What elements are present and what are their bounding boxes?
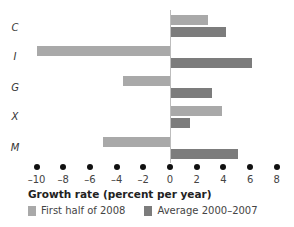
bar-m-average-2000-2007 [171,149,238,159]
legend-item-first-half-2008: First half of 2008 [28,205,125,216]
tick-label: –4 [104,174,130,186]
tick-label: 2 [184,174,210,186]
bar-x-average-2000-2007 [171,118,190,128]
tick-dot [194,164,200,170]
legend-item-average-2000-2007: Average 2000–2007 [144,205,257,216]
bar-m-first-half-2008 [103,137,170,147]
tick-label: –8 [50,174,76,186]
bar-i-first-half-2008 [37,46,171,56]
growth-rate-bar-chart: C I G X M –10–8–6–4–202468 Growth rate (… [0,0,294,227]
tick-label: –6 [77,174,103,186]
tick-label: 6 [237,174,263,186]
tick-dot [167,164,173,170]
tick-label: 8 [264,174,290,186]
legend-label-average-2000-2007: Average 2000–2007 [157,205,257,216]
tick-dot [220,164,226,170]
tick-dot [274,164,280,170]
tick-dot [34,164,40,170]
x-axis-title: Growth rate (percent per year) [28,188,212,200]
category-label-c: C [9,22,21,34]
category-label-x: X [9,111,21,123]
bar-i-average-2000-2007 [171,58,252,68]
tick-dot [114,164,120,170]
legend: First half of 2008 Average 2000–2007 [28,205,277,216]
legend-label-first-half-2008: First half of 2008 [41,205,125,216]
category-label-i: I [9,51,21,63]
tick-label: 0 [157,174,183,186]
tick-dot [87,164,93,170]
category-label-g: G [9,82,21,94]
legend-swatch-dark [144,206,152,216]
tick-label: 4 [210,174,236,186]
bar-c-average-2000-2007 [171,27,226,37]
bar-c-first-half-2008 [171,15,208,25]
tick-label: –2 [130,174,156,186]
tick-dot [60,164,66,170]
tick-label: –10 [24,174,50,186]
legend-swatch-light [28,206,36,216]
bar-g-average-2000-2007 [171,88,212,98]
category-label-m: M [9,142,21,154]
tick-dot [247,164,253,170]
bar-x-first-half-2008 [171,106,222,116]
tick-dot [140,164,146,170]
bar-g-first-half-2008 [123,76,170,86]
